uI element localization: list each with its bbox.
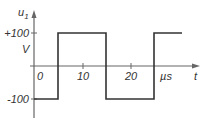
x-tick-label-10: 10: [77, 70, 90, 82]
y-tick-label-neg: -100: [7, 93, 30, 105]
x-tick-label-0: 0: [37, 70, 44, 82]
square-wave-chart: u1 +100 V -100 0 10 20 µs t: [0, 0, 210, 125]
y-axis-arrow-icon: [32, 10, 37, 18]
x-axis-arrow-icon: [192, 64, 200, 69]
x-axis-label: t: [194, 70, 198, 82]
x-unit-label: µs: [160, 70, 172, 82]
y-tick-label-pos: +100: [4, 27, 30, 39]
y-unit-label: V: [22, 43, 31, 55]
y-axis-label: u1: [18, 6, 29, 21]
x-tick-label-20: 20: [124, 70, 138, 82]
